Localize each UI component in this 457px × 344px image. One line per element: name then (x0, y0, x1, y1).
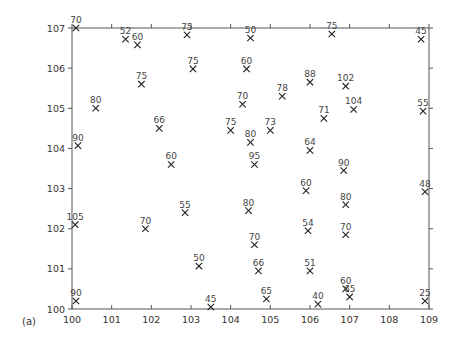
data-point: 90 (72, 133, 84, 149)
data-point: 90 (338, 158, 350, 174)
chart-canvas: 1001011021031041051061071081091001011021… (0, 0, 457, 344)
y-tick-label: 107 (47, 23, 65, 34)
data-point: 102 (337, 73, 354, 89)
point-value-label: 71 (318, 105, 329, 115)
data-point: 40 (312, 291, 324, 307)
point-value-label: 66 (154, 115, 166, 125)
data-point: 60 (300, 178, 312, 194)
point-value-label: 60 (132, 32, 144, 42)
point-value-label: 52 (120, 26, 131, 36)
data-point: 80 (243, 198, 255, 214)
point-value-label: 60 (165, 151, 177, 161)
data-point: 104 (345, 96, 362, 112)
data-point: 80 (340, 192, 352, 208)
data-point: 60 (165, 151, 177, 167)
data-point: 80 (245, 129, 257, 145)
x-tick-label: 103 (182, 314, 200, 325)
point-value-label: 70 (140, 216, 152, 226)
point-value-label: 80 (90, 95, 102, 105)
y-tick-label: 105 (47, 103, 65, 114)
x-tick-label: 102 (142, 314, 160, 325)
x-tick-label: 107 (341, 314, 359, 325)
point-value-label: 50 (245, 25, 257, 35)
data-point: 80 (90, 95, 102, 111)
data-point: 45 (205, 294, 216, 310)
data-point: 105 (67, 212, 84, 228)
data-points: 7052607550754575608810275807870104557190… (67, 15, 431, 310)
point-value-label: 60 (241, 56, 253, 66)
point-value-label: 75 (187, 56, 198, 66)
x-tick-label: 101 (103, 314, 121, 325)
y-tick-label: 106 (47, 63, 65, 74)
y-tick-label: 101 (47, 263, 65, 274)
data-point: 51 (304, 258, 315, 274)
data-point: 60 (241, 56, 253, 72)
data-point: 78 (277, 83, 289, 99)
point-value-label: 105 (67, 212, 84, 222)
y-tick-label: 103 (47, 183, 65, 194)
data-point: 88 (304, 69, 316, 85)
axis-ticks: 1001011021031041051061071081091001011021… (47, 23, 438, 326)
point-value-label: 75 (136, 71, 147, 81)
point-value-label: 88 (304, 69, 316, 79)
point-value-label: 78 (277, 83, 289, 93)
point-value-label: 104 (345, 96, 362, 106)
data-point: 73 (265, 117, 276, 133)
data-point: 75 (225, 117, 236, 133)
point-value-label: 40 (312, 291, 324, 301)
x-tick-label: 108 (380, 314, 398, 325)
data-point: 70 (140, 216, 152, 232)
point-value-label: 60 (300, 178, 312, 188)
data-point: 95 (249, 151, 260, 167)
data-point: 50 (193, 253, 205, 269)
point-value-label: 75 (326, 21, 337, 31)
point-value-label: 51 (304, 258, 315, 268)
data-point: 50 (245, 25, 257, 41)
point-value-label: 70 (340, 222, 352, 232)
y-tick-label: 104 (47, 143, 65, 154)
point-value-label: 90 (338, 158, 350, 168)
point-value-label: 75 (181, 22, 192, 32)
point-value-label: 70 (249, 232, 261, 242)
point-value-label: 50 (193, 253, 205, 263)
point-value-label: 55 (417, 98, 428, 108)
data-point: 66 (154, 115, 166, 131)
data-point: 66 (253, 258, 265, 274)
x-tick-label: 100 (63, 314, 81, 325)
data-point: 71 (318, 105, 329, 121)
data-point: 70 (340, 222, 352, 238)
point-value-label: 64 (304, 137, 316, 147)
data-point: 75 (181, 22, 192, 38)
point-value-label: 70 (237, 91, 249, 101)
point-value-label: 80 (340, 192, 352, 202)
y-tick-label: 100 (47, 304, 65, 315)
point-value-label: 75 (225, 117, 236, 127)
data-point: 52 (120, 26, 131, 42)
data-point: 65 (344, 284, 355, 300)
point-value-label: 95 (249, 151, 260, 161)
data-point: 75 (187, 56, 198, 72)
point-value-label: 102 (337, 73, 354, 83)
data-point: 55 (417, 98, 428, 114)
data-point: 70 (249, 232, 261, 248)
point-value-label: 80 (243, 198, 255, 208)
scatter-chart: 1001011021031041051061071081091001011021… (0, 0, 457, 344)
data-point: 75 (326, 21, 337, 37)
point-value-label: 90 (70, 288, 82, 298)
data-point: 65 (261, 286, 272, 302)
point-value-label: 45 (415, 26, 426, 36)
data-point: 75 (136, 71, 147, 87)
point-value-label: 66 (253, 258, 265, 268)
point-value-label: 73 (265, 117, 276, 127)
point-value-label: 65 (344, 284, 355, 294)
point-value-label: 70 (70, 15, 82, 25)
data-point: 64 (304, 137, 316, 153)
y-tick-label: 102 (47, 223, 65, 234)
data-point: 60 (132, 32, 144, 48)
panel-label: (a) (22, 316, 36, 327)
data-point: 54 (302, 218, 314, 234)
data-point: 70 (237, 91, 249, 107)
point-value-label: 90 (72, 133, 84, 143)
data-point: 45 (415, 26, 426, 42)
point-value-label: 48 (419, 179, 431, 189)
